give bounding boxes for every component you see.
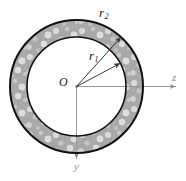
z-axis-label: z [172,72,176,83]
origin-label: O [59,76,68,88]
origin-point [75,85,77,87]
figure-canvas [0,0,186,181]
annulus-figure: r2 r1 O z y [0,0,186,181]
outer-radius-label: r2 [99,6,108,21]
y-axis-label: y [74,161,79,172]
inner-radius-label: r1 [89,49,98,64]
